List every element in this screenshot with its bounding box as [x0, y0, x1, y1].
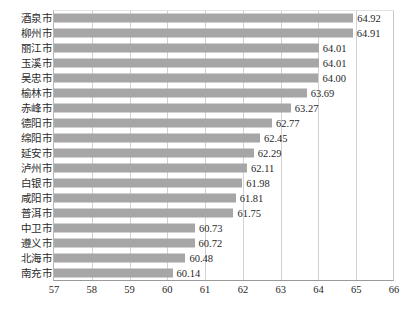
category-label: 酒泉市 — [21, 12, 52, 23]
bar-row: 白银市61.98 — [0, 176, 410, 191]
category-label: 咸阳市 — [21, 193, 52, 204]
bar[interactable] — [54, 254, 185, 263]
bar-row: 普洱市61.75 — [0, 206, 410, 221]
value-label: 62.45 — [264, 132, 288, 143]
bar-row: 德阳市62.77 — [0, 115, 410, 130]
value-label: 64.91 — [357, 27, 381, 38]
value-label: 63.27 — [295, 102, 319, 113]
category-label: 赤峰市 — [21, 102, 52, 113]
x-tick-58: 58 — [87, 283, 98, 296]
category-label: 玉溪市 — [21, 57, 52, 68]
x-tick-62: 62 — [238, 283, 249, 296]
value-label: 62.77 — [276, 117, 300, 128]
value-label: 64.01 — [323, 57, 347, 68]
category-label: 吴忠市 — [21, 72, 52, 83]
x-axis-tick-labels: 57585960616263646566 — [0, 283, 410, 299]
bar-fill — [54, 133, 260, 142]
bar-fill — [54, 149, 254, 158]
category-label: 德阳市 — [21, 117, 52, 128]
bar-fill — [54, 179, 242, 188]
value-label: 64.92 — [357, 12, 381, 23]
bar-row: 柳州市64.91 — [0, 25, 410, 40]
category-label: 柳州市 — [21, 27, 52, 38]
bar[interactable] — [54, 43, 319, 52]
bar[interactable] — [54, 118, 272, 127]
bar-row: 泸州市62.11 — [0, 161, 410, 176]
bar-rows: 酒泉市64.92柳州市64.91丽江市64.01玉溪市64.01吴忠市64.00… — [0, 10, 410, 281]
bar-row: 遵义市60.72 — [0, 236, 410, 251]
value-label: 60.48 — [189, 253, 213, 264]
bar[interactable] — [54, 58, 319, 67]
bar-fill — [54, 28, 353, 37]
bar-fill — [54, 103, 291, 112]
bar[interactable] — [54, 164, 247, 173]
bar-row: 榆林市63.69 — [0, 85, 410, 100]
value-label: 61.98 — [246, 178, 270, 189]
x-tick-66: 66 — [389, 283, 400, 296]
bar-fill — [54, 13, 353, 22]
category-label: 白银市 — [21, 178, 52, 189]
category-label: 南充市 — [21, 268, 52, 279]
value-label: 64.00 — [322, 72, 346, 83]
bar-fill — [54, 43, 319, 52]
bar-row: 赤峰市63.27 — [0, 100, 410, 115]
bar-fill — [54, 118, 272, 127]
bar-fill — [54, 58, 319, 67]
bar[interactable] — [54, 149, 254, 158]
bar-fill — [54, 88, 307, 97]
x-tick-63: 63 — [275, 283, 286, 296]
value-label: 60.73 — [199, 223, 223, 234]
bar-row: 咸阳市61.81 — [0, 191, 410, 206]
value-label: 60.72 — [199, 238, 223, 249]
category-label: 中卫市 — [21, 223, 52, 234]
category-label: 遵义市 — [21, 238, 52, 249]
bar[interactable] — [54, 269, 173, 278]
bar-fill — [54, 209, 233, 218]
bar-row: 绵阳市62.45 — [0, 130, 410, 145]
category-label: 绵阳市 — [21, 132, 52, 143]
x-tick-61: 61 — [200, 283, 211, 296]
bar[interactable] — [54, 239, 195, 248]
bar-fill — [54, 224, 195, 233]
bar-fill — [54, 194, 236, 203]
value-label: 61.75 — [237, 208, 261, 219]
x-tick-59: 59 — [124, 283, 135, 296]
value-label: 61.81 — [240, 193, 264, 204]
x-tick-65: 65 — [351, 283, 362, 296]
bar-row: 北海市60.48 — [0, 251, 410, 266]
bar[interactable] — [54, 179, 242, 188]
bar-row: 南充市60.14 — [0, 266, 410, 281]
value-label: 62.11 — [251, 163, 274, 174]
bar-row: 延安市62.29 — [0, 146, 410, 161]
value-label: 62.29 — [258, 148, 282, 159]
bar[interactable] — [54, 103, 291, 112]
x-tick-60: 60 — [162, 283, 173, 296]
bar[interactable] — [54, 194, 236, 203]
bar-fill — [54, 254, 185, 263]
bar-row: 玉溪市64.01 — [0, 55, 410, 70]
category-label: 榆林市 — [21, 87, 52, 98]
bar[interactable] — [54, 224, 195, 233]
bar-row: 丽江市64.01 — [0, 40, 410, 55]
bar[interactable] — [54, 209, 233, 218]
bar-row: 中卫市60.73 — [0, 221, 410, 236]
category-label: 延安市 — [21, 148, 52, 159]
bar-row: 酒泉市64.92 — [0, 10, 410, 25]
bar-fill — [54, 269, 173, 278]
x-tick-64: 64 — [313, 283, 324, 296]
bar[interactable] — [54, 13, 353, 22]
category-label: 丽江市 — [21, 42, 52, 53]
bar[interactable] — [54, 73, 318, 82]
bar-fill — [54, 239, 195, 248]
bar-row: 吴忠市64.00 — [0, 70, 410, 85]
bar[interactable] — [54, 28, 353, 37]
value-label: 60.14 — [177, 268, 201, 279]
x-tick-57: 57 — [49, 283, 60, 296]
value-label: 63.69 — [311, 87, 335, 98]
category-label: 泸州市 — [21, 163, 52, 174]
bar[interactable] — [54, 133, 260, 142]
bar-fill — [54, 73, 318, 82]
bar[interactable] — [54, 88, 307, 97]
bar-chart: 酒泉市64.92柳州市64.91丽江市64.01玉溪市64.01吴忠市64.00… — [0, 0, 410, 318]
category-label: 普洱市 — [21, 208, 52, 219]
